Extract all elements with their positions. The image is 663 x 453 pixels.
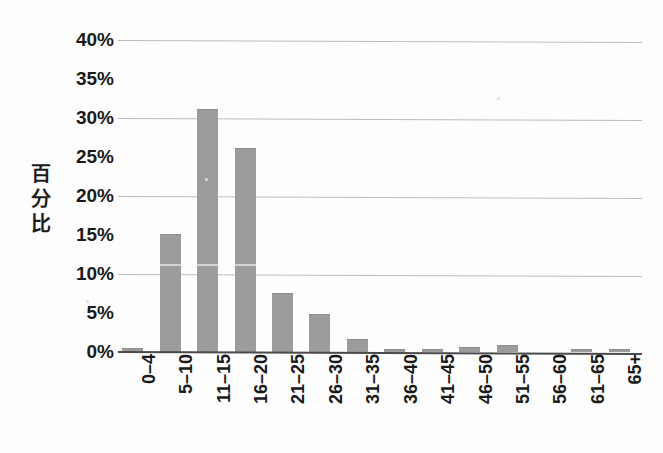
- bar: [309, 314, 330, 352]
- y-tick-label: 15%: [52, 224, 114, 246]
- bar: [609, 349, 630, 352]
- y-tick-label: 10%: [52, 263, 114, 285]
- x-tick-label: 51–55: [513, 354, 534, 444]
- bar: [197, 109, 218, 352]
- x-tick-label: 56–60: [550, 354, 571, 444]
- y-tick-label: 30%: [52, 107, 114, 129]
- bar: [571, 349, 592, 352]
- y-tick-label: 35%: [52, 68, 114, 90]
- x-tick-label: 46–50: [476, 354, 497, 444]
- x-tick-label: 31–35: [363, 354, 384, 444]
- x-tick-label: 65+: [625, 354, 646, 444]
- y-tick-label: 20%: [52, 185, 114, 207]
- x-tick-label: 21–25: [288, 354, 309, 444]
- x-tick-label: 16–20: [251, 354, 272, 444]
- bar: [235, 148, 256, 352]
- bar: [497, 345, 518, 352]
- bar: [272, 293, 293, 353]
- x-tick-label: 61–65: [588, 354, 609, 444]
- x-tick-label: 36–40: [401, 354, 422, 444]
- y-axis-title: 百 分 比: [28, 162, 54, 237]
- y-tick-label: 5%: [52, 302, 114, 324]
- y-axis-tick-labels: 40%35%30%25%20%15%10%5%0%: [52, 0, 114, 453]
- bar-chart: 百 分 比 40%35%30%25%20%15%10%5%0% 0–45–101…: [0, 0, 663, 453]
- y-tick-label: 25%: [52, 146, 114, 168]
- x-tick-label: 5–10: [176, 354, 197, 444]
- bar: [347, 339, 368, 352]
- y-tick-label: 0%: [52, 341, 114, 363]
- bar: [160, 234, 181, 352]
- y-tick-label: 40%: [52, 29, 114, 51]
- x-axis-tick-labels: 0–45–1011–1516–2021–2526–3031–3536–4041–…: [118, 356, 642, 451]
- x-tick-label: 26–30: [326, 354, 347, 444]
- x-tick-label: 0–4: [139, 354, 160, 444]
- bar-series: [118, 40, 642, 352]
- bar: [459, 347, 480, 352]
- x-tick-label: 41–45: [438, 354, 459, 444]
- x-tick-label: 11–15: [214, 354, 235, 444]
